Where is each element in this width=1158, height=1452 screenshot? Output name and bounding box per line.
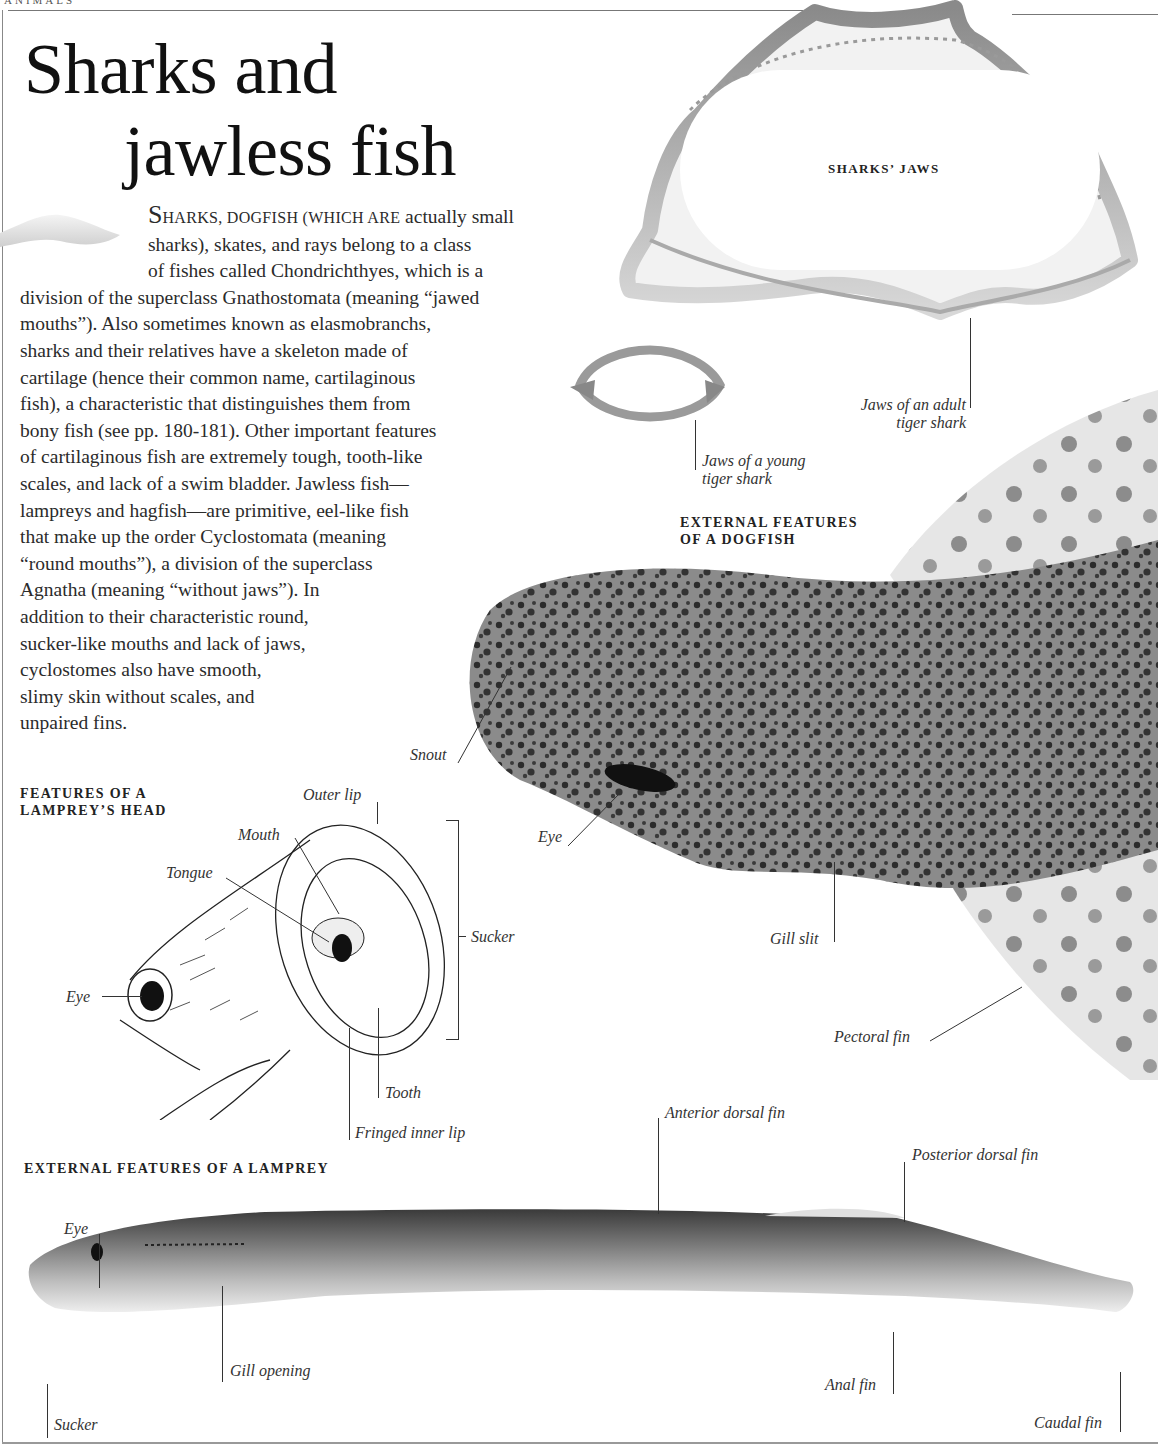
lamprey-sucker-leader: [47, 1384, 48, 1438]
lamprey-eye-label: Eye: [64, 1220, 88, 1238]
mouth-label: Mouth: [238, 826, 280, 844]
dogfish-snout-label: Snout: [410, 746, 446, 764]
dogfish-image: [450, 380, 1158, 1080]
gill-opening-leader: [222, 1286, 223, 1382]
fringed-inner-lip-leader: [349, 1028, 350, 1140]
pectoral-fin-leader: [928, 985, 1024, 1045]
lamprey-sucker-label: Sucker: [54, 1416, 98, 1434]
tongue-label: Tongue: [166, 864, 213, 882]
snout-leader: [455, 665, 515, 765]
caudal-fin-label: Caudal fin: [1034, 1414, 1102, 1432]
running-head: ANIMALS: [4, 0, 75, 6]
lamprey-head-heading-line-1: FEATURES OF A: [20, 785, 167, 802]
tongue-leader: [224, 876, 334, 946]
sucker-bracket: [446, 820, 459, 1040]
intro-line-1: sharks), skates, and rays belong to a cl…: [20, 232, 630, 259]
posterior-dorsal-fin-label: Posterior dorsal fin: [912, 1146, 1038, 1164]
tooth-label: Tooth: [385, 1084, 421, 1102]
drop-cap: S: [148, 200, 162, 229]
intro-line-0: actually small: [400, 206, 514, 227]
sucker-label: Sucker: [471, 928, 515, 946]
outer-lip-leader: [377, 802, 378, 824]
anterior-dorsal-fin-label: Anterior dorsal fin: [665, 1104, 785, 1122]
intro-line: SHARKS, DOGFISH (WHICH ARE actually smal…: [20, 202, 630, 232]
intro-line-4: mouths”). Also sometimes known as elasmo…: [20, 311, 630, 338]
intro-line-5: sharks and their relatives have a skelet…: [20, 338, 630, 365]
lamprey-head-eye-label: Eye: [66, 988, 90, 1006]
sucker-bracket-tick: [458, 936, 466, 937]
dogfish-eye-leader: [565, 790, 625, 850]
intro-line-2: of fishes called Chondrichthyes, which i…: [20, 258, 630, 285]
frame-rule-bottom: [2, 1442, 1158, 1444]
intro-line-3: division of the superclass Gnathostomata…: [20, 285, 630, 312]
caudal-fin-leader: [1120, 1372, 1121, 1432]
page-title-line-1: Sharks and: [24, 29, 337, 109]
outer-lip-label: Outer lip: [303, 786, 361, 804]
lamprey-body-image: [25, 1200, 1155, 1340]
lamprey-eye-leader: [99, 1234, 100, 1288]
anal-fin-leader: [893, 1332, 894, 1394]
lamprey-body-heading: EXTERNAL FEATURES OF A LAMPREY: [24, 1160, 329, 1177]
page-title: Sharks and jawless fish: [24, 28, 456, 192]
sharks-jaws-heading: SHARKS’ JAWS: [828, 160, 940, 177]
lamprey-head-eye-leader: [102, 996, 142, 997]
lead-smallcaps: HARKS, DOGFISH (WHICH ARE: [162, 209, 400, 226]
dogfish-pectoral-fin-label: Pectoral fin: [834, 1028, 910, 1046]
fringed-inner-lip-label: Fringed inner lip: [355, 1124, 465, 1142]
anterior-dorsal-fin-leader: [658, 1118, 659, 1214]
page-title-line-2: jawless fish: [24, 110, 456, 192]
dogfish-gill-slit-label: Gill slit: [770, 930, 818, 948]
tooth-leader: [378, 1008, 379, 1098]
lamprey-head-illustration: [110, 810, 450, 1120]
dogfish-eye-label: Eye: [538, 828, 562, 846]
gill-slit-leader: [834, 862, 835, 942]
posterior-dorsal-fin-leader: [904, 1162, 905, 1222]
gill-opening-label: Gill opening: [230, 1362, 310, 1380]
anal-fin-label: Anal fin: [825, 1376, 876, 1394]
